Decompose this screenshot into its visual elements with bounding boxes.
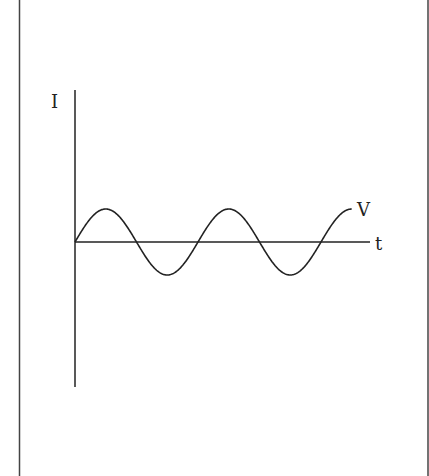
figure-frame: I V t <box>0 0 429 476</box>
curve-label: V <box>356 199 371 220</box>
waveform-diagram: I V t <box>0 0 429 476</box>
x-axis-label: t <box>375 233 383 254</box>
y-axis-label: I <box>51 91 58 112</box>
